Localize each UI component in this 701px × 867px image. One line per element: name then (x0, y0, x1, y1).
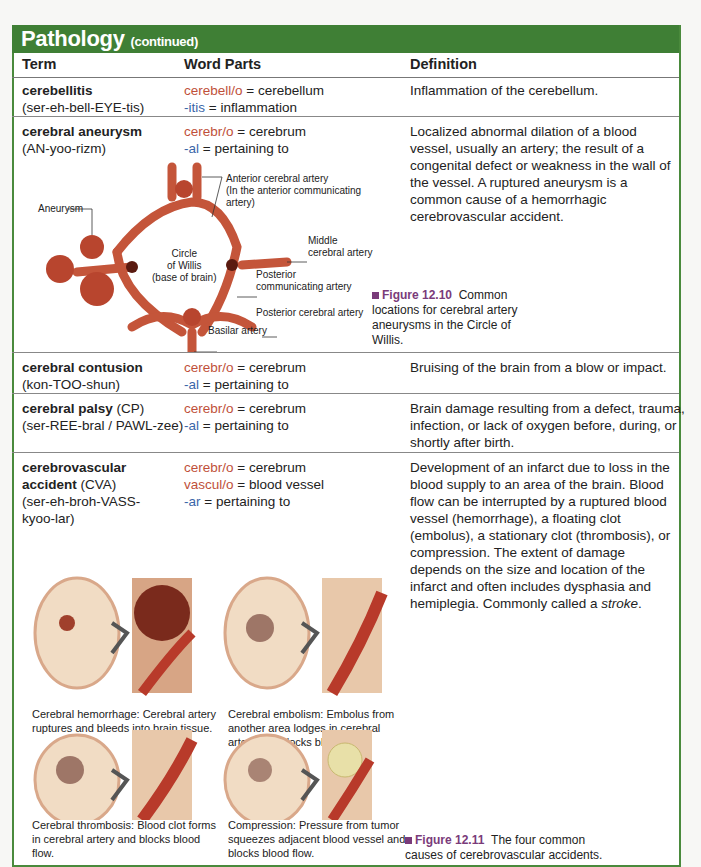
combining-form: cerebr/o (184, 124, 234, 139)
suffix: -itis (184, 100, 205, 115)
term: cerebral aneurysm (22, 123, 142, 140)
combining-form: cerebr/o (184, 401, 234, 416)
table-header: Term Word Parts Definition (12, 53, 679, 78)
combining-form: cerebr/o (184, 360, 234, 375)
section-banner: Pathology (continued) (12, 25, 679, 53)
suffix: -ar (184, 494, 201, 509)
meaning: = pertaining to (201, 494, 291, 509)
definition: Development of an infarct due to loss in… (410, 459, 675, 612)
meaning: = cerebellum (243, 83, 324, 98)
abbreviation: (CVA) (77, 477, 117, 492)
label-basilar-artery: Basilar artery (208, 325, 267, 337)
meaning: = pertaining to (199, 377, 289, 392)
meaning: = pertaining to (199, 418, 289, 433)
meaning: = cerebrum (234, 124, 306, 139)
meaning: = pertaining to (199, 141, 289, 156)
meaning: = cerebrum (234, 360, 306, 375)
meaning: = blood vessel (234, 477, 324, 492)
label-circle-of-willis: Circleof Willis(base of brain) (152, 248, 216, 284)
table-row: cerebrovascular accident (CVA) (ser-eh-b… (12, 453, 679, 860)
definition: Brain damage resulting from a defect, tr… (410, 400, 685, 451)
pronunciation: (kon-TOO-shun) (22, 376, 143, 393)
label-middle-cerebral-artery: Middlecerebral artery (308, 235, 372, 259)
table-row: cerebellitis (ser-eh-bell-EYE-tis) cereb… (12, 78, 679, 117)
term: cerebrovascular (22, 459, 140, 476)
label-aneurysm: Aneurysm (38, 203, 83, 215)
header-definition: Definition (410, 56, 477, 72)
meaning: = cerebrum (234, 460, 306, 475)
cerebral-embolism-illustration (222, 573, 402, 703)
label-anterior-cerebral-artery: Anterior cerebral artery(In the anterior… (226, 173, 361, 209)
pronunciation: kyoo-lar) (22, 510, 140, 527)
label-posterior-communicating-artery: Posteriorcommunicating artery (256, 269, 352, 293)
pronunciation: (ser-eh-broh-VASS- (22, 493, 140, 510)
term: cerebral palsy (22, 401, 113, 416)
cerebral-thrombosis-caption: Cerebral thrombosis: Blood clot forms in… (32, 818, 217, 860)
compression-caption: Compression: Pressure from tumor squeeze… (228, 818, 413, 860)
term: cerebellitis (22, 82, 144, 99)
table-row: cerebral aneurysm (AN-yoo-rizm) cerebr/o… (12, 117, 679, 353)
label-posterior-cerebral-artery: Posterior cerebral artery (256, 307, 363, 319)
table-row: cerebral palsy (CP) (ser-REE-bral / PAWL… (12, 394, 679, 453)
definition: Bruising of the brain from a blow or imp… (410, 359, 690, 376)
term: cerebral contusion (22, 359, 143, 376)
figure-12-11-caption: Figure 12.11 The four common causes of c… (405, 833, 615, 863)
pronunciation: (ser-REE-bral / PAWL-zee) (22, 417, 183, 434)
section-title: Pathology (continued) (21, 26, 198, 52)
combining-form: vascul/o (184, 477, 234, 492)
figure-marker-icon (372, 292, 379, 299)
section-subtitle: (continued) (130, 34, 197, 49)
definition: Localized abnormal dilation of a blood v… (410, 123, 680, 225)
figure-marker-icon (405, 837, 412, 844)
cerebral-thrombosis-illustration (32, 730, 212, 820)
header-term: Term (22, 56, 56, 72)
abbreviation: (CP) (113, 401, 145, 416)
suffix: -al (184, 141, 199, 156)
table-row: cerebral contusion (kon-TOO-shun) cerebr… (12, 353, 679, 394)
cerebral-hemorrhage-illustration (32, 573, 212, 703)
combining-form: cerebell/o (184, 83, 243, 98)
combining-form: cerebr/o (184, 460, 234, 475)
definition: Inflammation of the cerebellum. (410, 82, 665, 99)
figure-12-10-caption: Figure 12.10 Common locations for cerebr… (372, 288, 532, 348)
suffix: -al (184, 418, 199, 433)
compression-illustration (222, 730, 402, 820)
pronunciation: (ser-eh-bell-EYE-tis) (22, 99, 144, 116)
meaning: = inflammation (205, 100, 297, 115)
term: accident (22, 477, 77, 492)
suffix: -al (184, 377, 199, 392)
header-word-parts: Word Parts (184, 56, 261, 72)
meaning: = cerebrum (234, 401, 306, 416)
pronunciation: (AN-yoo-rizm) (22, 140, 142, 157)
